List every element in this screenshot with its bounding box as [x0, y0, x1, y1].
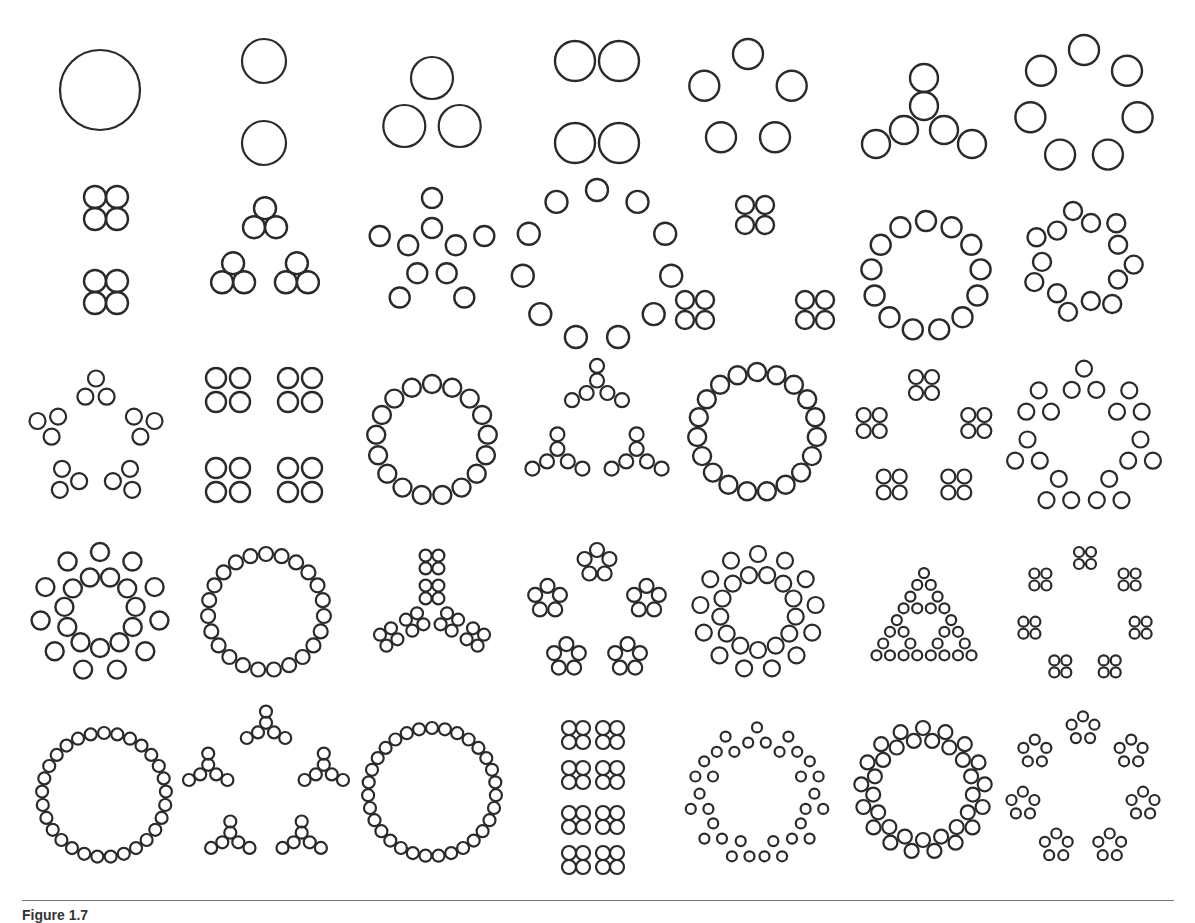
- circle-dot: [576, 761, 590, 775]
- factor-diagram-3: [383, 57, 480, 147]
- circle-dot: [576, 735, 590, 749]
- circle-dot: [1109, 236, 1127, 254]
- circle-dot: [472, 640, 484, 652]
- circle-dot: [1029, 795, 1039, 805]
- circle-dot: [158, 772, 170, 784]
- circle-dot: [727, 851, 737, 861]
- circle-dot: [278, 368, 298, 388]
- circle-dot: [725, 576, 741, 592]
- circle-dot: [77, 389, 93, 405]
- circle-dot: [814, 772, 824, 782]
- circle-dot: [1007, 795, 1017, 805]
- circle-dot: [729, 747, 739, 757]
- circle-dot: [488, 802, 500, 814]
- circle-dot: [1049, 667, 1059, 677]
- circle-dot: [206, 482, 226, 502]
- factor-diagram-7: [1015, 35, 1152, 170]
- circle-dot: [905, 639, 915, 649]
- circle-dot: [1063, 837, 1073, 847]
- circle-dot: [562, 820, 576, 834]
- circle-dot: [939, 603, 949, 613]
- circle-dot: [865, 286, 885, 306]
- circle-dot: [302, 482, 322, 502]
- circle-dot: [36, 786, 48, 798]
- circle-dot: [78, 848, 90, 860]
- circle-dot: [1145, 808, 1155, 818]
- factor-diagram-17: [367, 375, 497, 504]
- circle-dot: [201, 609, 215, 623]
- circle-dot: [576, 721, 590, 735]
- circle-dot: [565, 393, 579, 407]
- factor-diagram-20: [857, 370, 992, 500]
- circle-dot: [452, 614, 464, 626]
- circle-dot: [50, 409, 66, 425]
- circle-dot: [1059, 303, 1077, 321]
- circle-dot: [147, 413, 163, 429]
- circle-dot: [953, 307, 973, 327]
- circle-dot: [916, 833, 930, 847]
- circle-dot: [712, 647, 728, 663]
- circle-dot: [966, 820, 980, 834]
- circle-dot: [883, 836, 897, 850]
- circle-dot: [36, 578, 54, 596]
- circle-dot: [777, 553, 793, 569]
- circle-dot: [977, 408, 991, 422]
- circle-dot: [903, 319, 923, 339]
- circle-dot: [596, 860, 610, 874]
- circle-dot: [299, 774, 311, 786]
- circle-dot: [956, 753, 970, 767]
- circle-dot: [607, 326, 629, 348]
- circle-dot: [1018, 629, 1028, 639]
- factor-diagram-9: [211, 197, 319, 293]
- circle-dot: [890, 217, 910, 237]
- circle-dot: [486, 764, 498, 776]
- circle-dot: [1041, 569, 1051, 579]
- circle-dot: [958, 737, 972, 751]
- circle-dot: [461, 633, 473, 645]
- circle-dot: [1142, 617, 1152, 627]
- circle-dot: [124, 618, 142, 636]
- circle-dot: [417, 618, 429, 630]
- circle-dot: [259, 547, 273, 561]
- circle-dot: [32, 612, 50, 630]
- circle-dot: [909, 386, 923, 400]
- circle-dot: [576, 820, 590, 834]
- circle-dot: [957, 470, 971, 484]
- circle-dot: [390, 288, 410, 308]
- circle-dot: [941, 486, 955, 500]
- circle-dot: [337, 774, 349, 786]
- circle-dot: [367, 426, 385, 444]
- circle-dot: [600, 386, 614, 400]
- circle-dot: [1086, 559, 1096, 569]
- circle-dot: [407, 263, 427, 283]
- circle-dot: [912, 580, 922, 590]
- circle-dot: [304, 836, 316, 848]
- circle-dot: [400, 614, 412, 626]
- circle-dot: [1089, 720, 1099, 730]
- circle-dot: [378, 465, 396, 483]
- circle-dot: [1101, 471, 1117, 487]
- circle-dot: [699, 756, 709, 766]
- factor-diagram-23: [201, 547, 331, 677]
- circle-dot: [1088, 382, 1104, 398]
- circle-dot: [871, 805, 885, 819]
- factor-diagram-25: [528, 543, 666, 675]
- circle-dot: [1061, 655, 1071, 665]
- circle-dot: [1109, 271, 1127, 289]
- circle-dot: [686, 804, 696, 814]
- circle-dot: [363, 776, 375, 788]
- factor-diagram-1: [60, 50, 140, 130]
- circle-dot: [55, 598, 73, 616]
- circle-dot: [711, 376, 729, 394]
- circle-dot: [1037, 756, 1047, 766]
- circle-dot: [942, 741, 956, 755]
- circle-dot: [745, 851, 755, 861]
- circle-dot: [916, 211, 936, 231]
- circle-dot: [422, 188, 442, 208]
- circle-dot: [362, 789, 374, 801]
- circle-dot: [806, 408, 824, 426]
- circle-dot: [111, 633, 129, 651]
- circle-dot: [596, 775, 610, 789]
- circle-dot: [420, 850, 432, 862]
- circle-dot: [621, 637, 635, 651]
